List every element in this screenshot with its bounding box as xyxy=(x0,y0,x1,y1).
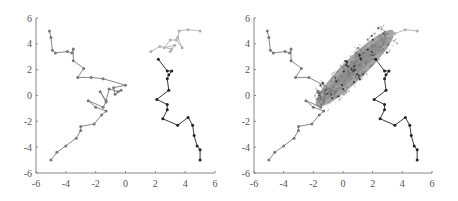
data-point xyxy=(157,58,160,61)
data-point xyxy=(161,117,164,120)
y-tick-label: 6 xyxy=(245,13,250,24)
data-point xyxy=(166,77,169,80)
data-point xyxy=(267,159,270,162)
data-point xyxy=(284,50,287,53)
data-point xyxy=(76,76,79,79)
x-tick-label: 0 xyxy=(123,178,128,189)
data-point xyxy=(416,159,419,162)
data-point xyxy=(383,69,386,72)
data-point xyxy=(383,108,386,111)
data-point xyxy=(170,69,173,72)
x-tick-label: 2 xyxy=(153,178,158,189)
data-point xyxy=(79,125,82,128)
data-point xyxy=(318,113,321,116)
data-point xyxy=(105,110,108,113)
data-point xyxy=(155,98,158,101)
data-point xyxy=(193,134,196,137)
data-point xyxy=(54,51,57,54)
data-point xyxy=(108,88,111,91)
data-point xyxy=(322,99,325,102)
data-point xyxy=(64,144,67,147)
data-point xyxy=(312,106,315,109)
data-point xyxy=(166,103,169,106)
data-point xyxy=(383,103,386,106)
data-point xyxy=(163,46,166,49)
y-tick-label: -4 xyxy=(24,142,32,153)
data-point xyxy=(99,90,102,93)
x-tick-label: 0 xyxy=(341,178,346,189)
data-point xyxy=(199,29,202,32)
data-point xyxy=(322,110,325,113)
data-point xyxy=(170,48,173,51)
data-point xyxy=(166,108,169,111)
x-tick-label: -6 xyxy=(250,178,258,189)
data-point xyxy=(300,67,303,70)
data-point xyxy=(199,148,202,151)
data-point xyxy=(49,36,52,39)
y-tick-label: -4 xyxy=(242,142,250,153)
y-tick-label: -6 xyxy=(242,168,250,179)
x-tick-label: -2 xyxy=(91,178,99,189)
y-tick-label: 2 xyxy=(245,64,250,75)
chart-figure: -6-4-20246-6-4-20246 -6-4-20246-6-4-2024… xyxy=(0,0,458,201)
x-tick-label: 2 xyxy=(370,178,375,189)
data-point xyxy=(319,106,322,109)
data-point xyxy=(72,59,75,62)
data-point xyxy=(196,144,199,147)
data-point xyxy=(187,116,190,119)
data-point xyxy=(187,28,190,31)
data-point xyxy=(102,77,105,80)
data-point xyxy=(408,124,411,127)
data-point xyxy=(304,99,307,102)
data-point xyxy=(385,73,388,76)
data-point xyxy=(175,38,178,41)
data-point xyxy=(387,69,390,72)
data-point xyxy=(325,88,328,91)
y-tick-label: 0 xyxy=(245,90,250,101)
data-point xyxy=(114,93,117,96)
data-point xyxy=(167,73,170,76)
data-point xyxy=(158,45,161,48)
data-point xyxy=(87,99,90,102)
data-point xyxy=(416,148,419,151)
series-line xyxy=(267,31,335,160)
data-point xyxy=(310,122,313,125)
x-tick-label: -4 xyxy=(279,178,287,189)
series-trajectory-right xyxy=(155,58,201,162)
axes: -6-4-20246-6-4-20246 xyxy=(24,13,218,190)
x-tick-label: -6 xyxy=(32,178,40,189)
data-point xyxy=(66,50,69,53)
data-point xyxy=(166,69,169,72)
data-point xyxy=(79,129,82,132)
plot-right: -6-4-20246-6-4-20246 xyxy=(242,13,435,190)
data-point xyxy=(316,90,319,93)
y-tick-label: 4 xyxy=(27,38,32,49)
data-point xyxy=(176,124,179,127)
data-point xyxy=(413,144,416,147)
data-point xyxy=(404,116,407,119)
data-point xyxy=(49,159,52,162)
y-tick-label: -6 xyxy=(24,168,32,179)
x-tick-label: -4 xyxy=(62,178,70,189)
data-point xyxy=(307,76,310,79)
data-point xyxy=(297,125,300,128)
data-point xyxy=(176,36,179,39)
data-point xyxy=(404,28,407,31)
x-tick-label: 4 xyxy=(183,178,188,189)
data-point xyxy=(102,106,105,109)
data-point xyxy=(51,49,54,52)
data-point xyxy=(267,36,270,39)
data-point xyxy=(266,29,269,32)
x-tick-label: 6 xyxy=(430,178,435,189)
data-point xyxy=(272,51,275,54)
y-tick-label: 0 xyxy=(27,90,32,101)
data-point xyxy=(169,50,172,53)
data-point xyxy=(93,122,96,125)
data-point xyxy=(386,35,389,38)
data-point xyxy=(290,48,293,51)
data-point xyxy=(269,49,272,52)
data-point xyxy=(169,38,172,41)
data-point xyxy=(94,106,97,109)
y-tick-label: -2 xyxy=(242,116,250,127)
data-point xyxy=(374,58,377,61)
